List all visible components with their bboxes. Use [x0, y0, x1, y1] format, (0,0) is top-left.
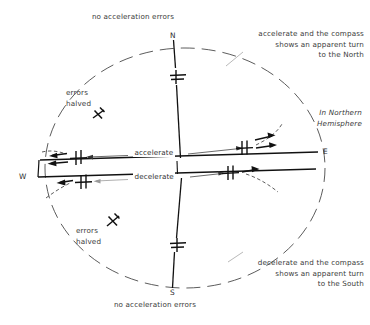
south-axis-lower — [173, 252, 175, 288]
decelerate-arrow-shaft-right — [190, 174, 222, 178]
cardinal-south: S — [170, 288, 175, 297]
note-decelerate-south: decelerate and the compass shows an appa… — [224, 258, 364, 290]
cardinal-west: W — [19, 172, 26, 181]
compass-needle-south — [170, 238, 186, 252]
decelerate-arrow-head-left — [94, 179, 101, 184]
errors-halved-lower: errors halved — [76, 226, 132, 247]
we-band-west-cap — [38, 160, 39, 177]
compass-circle — [45, 48, 325, 288]
errors-halved-upper: errors halved — [66, 88, 122, 109]
deflection-arrowhead-accel-west-upper — [49, 153, 58, 158]
accelerate-arrow-shaft-left — [88, 156, 128, 158]
deflection-arrowhead-accel-west-lower — [48, 161, 57, 167]
accelerate-label: accelerate — [133, 148, 175, 157]
note-accelerate-north: accelerate and the compass shows an appa… — [224, 29, 364, 61]
accelerate-arrow-shaft-right — [188, 149, 240, 155]
cardinal-north: N — [170, 31, 176, 40]
compass-needle-accelerate-west — [70, 150, 87, 165]
bottom-caption: no acceleration errors — [80, 300, 230, 311]
compass-acceleration-error-figure: no acceleration errors no acceleration e… — [0, 0, 370, 325]
deflection-arrowhead-accel-east-lower — [269, 142, 277, 148]
top-caption: no acceleration errors — [58, 12, 208, 23]
deflection-arc-decel-east — [246, 174, 278, 192]
deflection-arc-decel-west — [46, 183, 70, 198]
compass-needle-accelerate-east — [236, 141, 253, 156]
decelerate-arrow-shaft-left — [96, 180, 128, 182]
compass-needle-decelerate-west — [75, 175, 92, 190]
tilted-compass-symbol-lower-left — [107, 214, 120, 227]
hemisphere-note: In Northern Hemisphere — [274, 108, 362, 129]
north-axis-lower — [177, 85, 181, 158]
north-axis-upper — [174, 40, 176, 68]
cardinal-east: E — [323, 147, 328, 156]
compass-needle-north — [170, 70, 186, 84]
deflection-arrowhead-accel-east-upper — [268, 133, 276, 139]
tilted-compass-symbol-upper-left — [93, 108, 105, 119]
we-band-centre-tick — [177, 161, 178, 174]
compass-needle-decelerate-east — [222, 166, 239, 181]
deflection-arrowhead-decel-west — [57, 180, 66, 186]
decelerate-label: decelerate — [133, 172, 175, 181]
south-axis-upper — [177, 178, 182, 238]
